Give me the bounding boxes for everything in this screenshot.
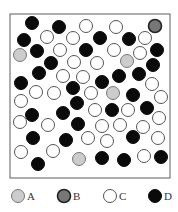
legend-swatch-a-icon xyxy=(12,190,25,203)
particle-d-icon xyxy=(26,109,39,122)
legend-item-c: C xyxy=(104,190,127,203)
particle-c-icon xyxy=(77,71,90,84)
legend-label-b: B xyxy=(73,190,80,202)
particle-d-icon xyxy=(71,97,84,110)
particle-c-icon xyxy=(138,150,151,163)
particle-d-icon xyxy=(118,154,131,167)
particle-d-icon xyxy=(72,118,85,131)
legend-item-b: B xyxy=(58,190,81,203)
particle-d-icon xyxy=(33,67,46,80)
particle-c-icon xyxy=(134,47,147,60)
particle-c-icon xyxy=(42,119,55,132)
particle-c-icon xyxy=(47,145,60,158)
particle-a-icon xyxy=(73,153,86,166)
particle-d-icon xyxy=(57,107,70,120)
particle-c-icon xyxy=(80,20,93,33)
particle-c-icon xyxy=(91,57,104,70)
legend-item-d: D xyxy=(149,190,173,203)
particle-d-icon xyxy=(18,34,31,47)
particle-d-icon xyxy=(27,132,40,145)
particle-d-icon xyxy=(96,152,109,165)
legend-swatch-d-icon xyxy=(149,190,162,203)
particle-d-icon xyxy=(80,44,93,57)
particle-c-icon xyxy=(146,78,159,91)
particle-c-icon xyxy=(101,135,114,148)
particle-c-icon xyxy=(108,44,121,57)
particle-d-icon xyxy=(127,131,140,144)
particle-c-icon xyxy=(155,91,168,104)
particle-d-icon xyxy=(106,104,119,117)
particle-d-icon xyxy=(151,44,164,57)
particle-d-icon xyxy=(67,82,80,95)
particle-c-icon xyxy=(96,120,109,133)
legend-label-c: C xyxy=(119,190,126,202)
particle-b-icon xyxy=(149,20,162,33)
particle-d-icon xyxy=(155,151,168,164)
particle-c-icon xyxy=(68,56,81,69)
particle-d-icon xyxy=(32,158,45,171)
particle-c-icon xyxy=(85,87,98,100)
particle-d-icon xyxy=(45,57,58,70)
particle-c-icon xyxy=(48,87,61,100)
particle-d-icon xyxy=(60,134,73,147)
particle-c-icon xyxy=(137,121,150,134)
particle-c-icon xyxy=(122,104,135,117)
legend-swatch-b-icon xyxy=(58,190,71,203)
particle-c-icon xyxy=(89,104,102,117)
particle-c-icon xyxy=(15,146,28,159)
legend-swatch-c-icon xyxy=(104,190,117,203)
legend-item-a: A xyxy=(12,190,36,203)
particle-a-icon xyxy=(14,49,27,62)
particle-d-icon xyxy=(127,89,140,102)
particle-diagram: ABCD xyxy=(0,0,178,212)
particle-c-icon xyxy=(114,119,127,132)
particle-d-icon xyxy=(31,45,44,58)
particle-d-icon xyxy=(113,70,126,83)
particle-d-icon xyxy=(15,77,28,90)
particle-c-icon xyxy=(82,132,95,145)
particle-c-icon xyxy=(54,44,67,57)
particle-c-icon xyxy=(139,32,152,45)
particle-d-icon xyxy=(141,102,154,115)
particle-c-icon xyxy=(41,31,54,44)
legend: ABCD xyxy=(12,190,173,203)
particle-d-icon xyxy=(133,68,146,81)
legend-label-d: D xyxy=(164,190,172,202)
particle-a-icon xyxy=(107,87,120,100)
particle-c-icon xyxy=(67,32,80,45)
legend-label-a: A xyxy=(27,190,35,202)
particle-d-icon xyxy=(147,59,160,72)
particle-d-icon xyxy=(96,76,109,89)
particle-a-icon xyxy=(121,55,134,68)
particle-c-icon xyxy=(57,70,70,83)
particle-c-icon xyxy=(30,86,43,99)
particle-c-icon xyxy=(14,116,27,129)
particle-d-icon xyxy=(26,17,39,30)
particle-c-icon xyxy=(152,132,165,145)
particle-d-icon xyxy=(94,32,107,45)
particle-c-icon xyxy=(110,21,123,34)
particle-c-icon xyxy=(153,112,166,125)
particle-d-icon xyxy=(123,33,136,46)
particle-c-icon xyxy=(15,95,28,108)
particle-d-icon xyxy=(53,21,66,34)
